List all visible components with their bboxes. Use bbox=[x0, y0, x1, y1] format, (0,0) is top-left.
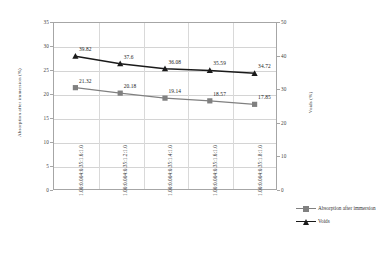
data-point-label: 18.57 bbox=[213, 91, 226, 97]
horizontal-gridline bbox=[54, 119, 276, 120]
legend-label-absorption: Absorption after immersion bbox=[318, 206, 376, 211]
data-point-label: 35.59 bbox=[213, 60, 226, 66]
chart-legend: Absorption after immersion Voids bbox=[296, 205, 376, 231]
y-axis-left-tick-mark bbox=[50, 70, 53, 71]
data-point-label: 19.14 bbox=[169, 88, 182, 94]
legend-label-voids: Voids bbox=[318, 219, 330, 224]
y-axis-left-tick-label: 5 bbox=[31, 163, 49, 169]
y-axis-left-tick-mark bbox=[50, 190, 53, 191]
data-point-label: 36.08 bbox=[169, 59, 182, 65]
y-axis-left-tick-label: 15 bbox=[31, 115, 49, 121]
vertical-gridline bbox=[233, 23, 234, 189]
y-axis-right-tick-mark bbox=[277, 89, 280, 90]
data-point-label: 37.6 bbox=[124, 54, 134, 60]
y-axis-left-tick-mark bbox=[50, 46, 53, 47]
horizontal-gridline bbox=[54, 95, 276, 96]
horizontal-gridline bbox=[54, 143, 276, 144]
legend-key-triangle-icon bbox=[296, 218, 316, 225]
y-axis-left-tick-label: 30 bbox=[31, 43, 49, 49]
data-point-label: 39.82 bbox=[79, 46, 92, 52]
y-axis-left-tick-label: 20 bbox=[31, 91, 49, 97]
y-axis-right-tick-label: 0 bbox=[281, 187, 301, 193]
y-axis-left-tick-mark bbox=[50, 22, 53, 23]
horizontal-gridline bbox=[54, 167, 276, 168]
y-axis-left-tick-label: 10 bbox=[31, 139, 49, 145]
horizontal-gridline bbox=[54, 71, 276, 72]
y-axis-right-tick-mark bbox=[277, 190, 280, 191]
legend-key-square-icon bbox=[296, 205, 316, 212]
y-axis-right-tick-label: 50 bbox=[281, 19, 301, 25]
data-point-label: 20.18 bbox=[124, 83, 137, 89]
x-axis-category-label: 1.00:0.004:0.35:1.2:1.0 bbox=[122, 145, 128, 196]
y-axis-right-tick-label: 30 bbox=[281, 86, 301, 92]
y-axis-right-tick-mark bbox=[277, 123, 280, 124]
y-axis-left-tick-label: 35 bbox=[31, 19, 49, 25]
y-axis-right-tick-label: 20 bbox=[281, 120, 301, 126]
x-axis-category-label: 1.00:0.004:0.35:1.6:1.0 bbox=[78, 145, 84, 196]
vertical-gridline bbox=[188, 23, 189, 189]
y-axis-left-tick-label: 0 bbox=[31, 187, 49, 193]
y-axis-right-tick-mark bbox=[277, 22, 280, 23]
x-axis-category-label: 1.00:0.004:0.35:1.6:1.0 bbox=[212, 145, 218, 196]
data-point-label: 17.85 bbox=[258, 94, 271, 100]
y-axis-right-tick-mark bbox=[277, 56, 280, 57]
vertical-gridline bbox=[99, 23, 100, 189]
data-point-label: 21.32 bbox=[79, 78, 92, 84]
x-axis-category-label: 1.00:0.004:0.35:1.4:1.0 bbox=[167, 145, 173, 196]
x-axis-category-label: 1.00:0.004:0.35:1.8:1.0 bbox=[257, 145, 263, 196]
y-axis-left-tick-mark bbox=[50, 166, 53, 167]
y-axis-right-tick-mark bbox=[277, 156, 280, 157]
vertical-gridline bbox=[144, 23, 145, 189]
y-axis-right-title: Voids (%) bbox=[308, 68, 313, 138]
y-axis-left-title: Absorption after immersion (%) bbox=[17, 48, 22, 158]
y-axis-right-tick-label: 10 bbox=[281, 153, 301, 159]
y-axis-left-tick-label: 25 bbox=[31, 67, 49, 73]
legend-item-absorption[interactable]: Absorption after immersion bbox=[296, 205, 376, 212]
y-axis-right-tick-label: 40 bbox=[281, 53, 301, 59]
y-axis-left-tick-mark bbox=[50, 142, 53, 143]
y-axis-left-tick-mark bbox=[50, 94, 53, 95]
legend-item-voids[interactable]: Voids bbox=[296, 218, 376, 225]
data-point-label: 34.72 bbox=[258, 63, 271, 69]
y-axis-left-tick-mark bbox=[50, 118, 53, 119]
